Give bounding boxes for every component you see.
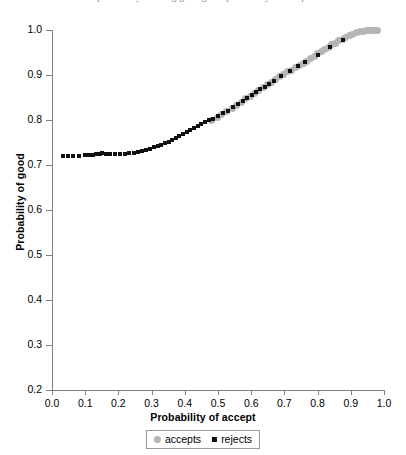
data-point-rejects [66,154,70,158]
x-tick-mark [251,390,252,395]
data-point-rejects [83,153,87,157]
x-tick-mark [118,390,119,395]
data-point-rejects [221,111,225,115]
y-tick-label: 1.0 [0,23,42,35]
x-tick-mark [384,390,385,395]
data-point-rejects [272,79,276,83]
legend-label: accepts [165,433,201,445]
data-point-rejects [108,152,112,156]
chart-legend: acceptsrejects [146,430,260,449]
legend-label: rejects [221,433,252,445]
x-axis-title: Probability of accept [0,411,406,423]
y-tick-mark [46,300,52,301]
data-point-rejects [61,154,65,158]
y-tick-label: 0.3 [0,338,42,350]
data-point-rejects [211,117,215,121]
data-point-rejects [341,38,345,42]
data-point-rejects [279,74,283,78]
legend-circle-icon [154,436,161,443]
data-point-rejects [236,102,240,106]
data-point-rejects [118,152,122,156]
legend-square-icon [212,437,217,442]
data-point-rejects [296,64,300,68]
data-point-rejects [328,45,332,49]
y-tick-mark [46,120,52,121]
y-tick-mark [46,210,52,211]
x-tick-mark [218,390,219,395]
data-point-rejects [77,154,81,158]
y-tick-label: 0.2 [0,383,42,395]
x-tick-mark [85,390,86,395]
data-point-rejects [288,69,292,73]
legend-entry-accepts: accepts [154,433,201,445]
y-tick-mark [46,75,52,76]
data-point-rejects [250,93,254,97]
plot-area: 0.20.30.40.50.60.70.80.91.0 0.00.10.20.3… [0,0,406,455]
x-tick-mark [52,390,53,395]
data-point-rejects [113,152,117,156]
y-axis-line [52,30,53,391]
data-point-rejects [127,151,131,155]
scatter-plot-figure: probability of being good given probabil… [0,0,406,455]
data-point-rejects [241,99,245,103]
y-tick-mark [46,30,52,31]
legend-entry-rejects: rejects [212,433,252,445]
y-tick-mark [46,345,52,346]
data-point-rejects [316,53,320,57]
x-tick-mark [185,390,186,395]
y-tick-mark [46,165,52,166]
data-point-rejects [231,105,235,109]
x-tick-mark [318,390,319,395]
x-tick-mark [351,390,352,395]
x-tick-label: 1.0 [364,397,404,409]
y-axis-title: Probability of good [14,102,26,302]
data-point-rejects [303,60,307,64]
x-tick-mark [152,390,153,395]
data-point-rejects [226,109,230,113]
data-point-rejects [71,154,75,158]
data-point-accepts [374,27,381,34]
data-point-rejects [216,114,220,118]
x-tick-mark [284,390,285,395]
y-tick-label: 0.9 [0,68,42,80]
y-tick-mark [46,255,52,256]
data-point-rejects [263,85,267,89]
